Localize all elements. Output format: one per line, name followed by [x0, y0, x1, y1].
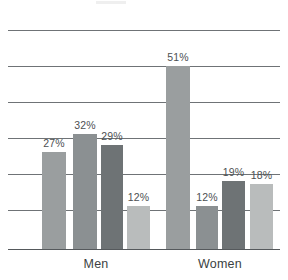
gridline-5: [8, 30, 280, 31]
x-axis-line: [8, 249, 280, 250]
bar-value-label: 32%: [69, 120, 101, 131]
plot-area: 27%32%29%12%51%12%19%18%: [0, 0, 288, 252]
bar-men-series-2: [73, 134, 97, 249]
bar-men-series-1: [42, 152, 66, 249]
bar-women-series-3: [222, 181, 245, 249]
group-label-men: Men: [56, 257, 136, 271]
bar-chart: 27%32%29%12%51%12%19%18% MenWomen: [0, 0, 288, 280]
bar-value-label: 12%: [123, 192, 155, 203]
bar-men-series-4: [127, 206, 150, 249]
group-label-women: Women: [180, 257, 260, 271]
gridline-4: [8, 66, 280, 67]
bar-value-label: 29%: [96, 131, 128, 142]
bar-value-label: 18%: [246, 170, 278, 181]
bar-value-label: 51%: [162, 52, 194, 63]
bar-value-label: 12%: [191, 192, 223, 203]
bar-women-series-1: [166, 66, 190, 249]
bar-women-series-4: [250, 184, 273, 249]
category-axis-labels: MenWomen: [0, 254, 288, 278]
gridline-3: [8, 102, 280, 103]
bar-women-series-2: [196, 206, 218, 249]
bar-value-label: 27%: [38, 138, 70, 149]
bar-men-series-3: [101, 145, 123, 249]
